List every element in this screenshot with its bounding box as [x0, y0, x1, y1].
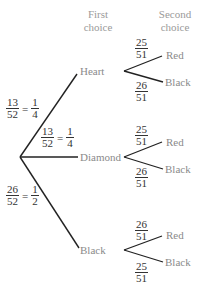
prob-black-black: 2551 — [135, 261, 148, 284]
prob-heart-red: 2551 — [135, 37, 148, 60]
prob-black: 2652 = 12 — [6, 184, 39, 207]
denominator: 51 — [135, 92, 148, 103]
simplified-denominator: 4 — [66, 138, 74, 149]
header-second-line2: choice — [150, 21, 200, 34]
prob-denominator: 52 — [6, 196, 19, 207]
prob-diamond: 1352 = 14 — [41, 126, 74, 149]
simplified-denominator: 2 — [31, 196, 39, 207]
denominator: 51 — [135, 49, 148, 60]
node-black-black: Black — [165, 256, 191, 268]
denominator: 51 — [135, 231, 148, 242]
prob-heart: 1352 = 14 — [6, 97, 39, 120]
prob-diamond-red: 2551 — [135, 124, 148, 147]
node-diamond-black: Black — [165, 163, 191, 175]
header-first-line2: choice — [73, 21, 123, 34]
header-first-choice: First choice — [73, 8, 123, 34]
header-second-line1: Second — [150, 8, 200, 21]
node-heart-black: Black — [165, 76, 191, 88]
denominator: 51 — [135, 178, 148, 189]
header-first-line1: First — [73, 8, 123, 21]
prob-heart-black: 2651 — [135, 80, 148, 103]
node-heart: Heart — [80, 65, 104, 77]
prob-denominator: 52 — [6, 109, 19, 120]
simplified-denominator: 4 — [31, 109, 39, 120]
node-diamond: Diamond — [80, 151, 121, 163]
denominator: 51 — [135, 136, 148, 147]
prob-diamond-black: 2651 — [135, 166, 148, 189]
node-diamond-red: Red — [166, 136, 184, 148]
prob-denominator: 52 — [41, 138, 54, 149]
node-heart-red: Red — [166, 49, 184, 61]
node-black-red: Red — [166, 229, 184, 241]
node-black: Black — [80, 244, 106, 256]
prob-black-red: 2651 — [135, 219, 148, 242]
denominator: 51 — [135, 273, 148, 284]
header-second-choice: Second choice — [150, 8, 200, 34]
